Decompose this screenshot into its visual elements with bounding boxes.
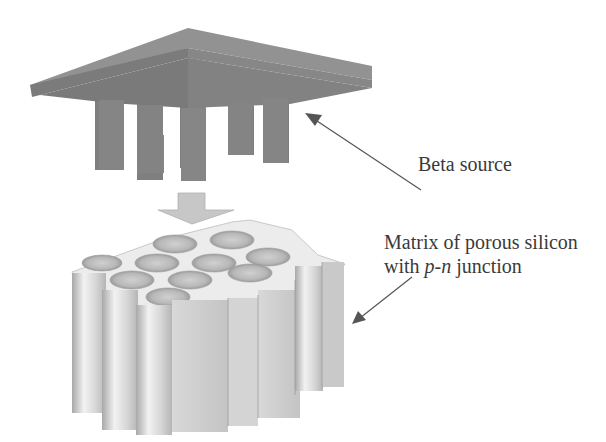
- beta-source-pointer: [305, 113, 421, 190]
- matrix-label-line2: with p-n junction: [384, 254, 522, 278]
- pn-italic: p-n: [425, 255, 452, 277]
- arrowhead-icon: [305, 113, 322, 126]
- beta-source: [30, 28, 372, 181]
- beta-source-label: Beta source: [418, 152, 512, 176]
- matrix-pointer: [352, 277, 412, 324]
- matrix-label-line1: Matrix of porous silicon: [384, 230, 578, 254]
- source-pillars-front: [99, 98, 288, 181]
- down-arrow-icon: [158, 193, 234, 224]
- matrix-label-suffix: junction: [451, 255, 522, 277]
- arrowhead-icon: [352, 311, 366, 324]
- betavoltaic-diagram: [0, 0, 606, 442]
- porous-silicon-matrix: [72, 220, 345, 435]
- matrix-label-prefix: with: [384, 255, 425, 277]
